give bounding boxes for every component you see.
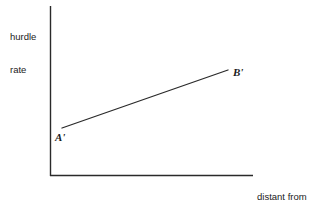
figure-container: hurdle rate distant from capabilities A'… (0, 0, 326, 203)
y-axis-title: hurdle rate (10, 9, 36, 97)
y-axis-title-line1: hurdle (10, 31, 36, 42)
data-point-label-a: A' (55, 131, 65, 143)
x-axis-title-line1: distant from (257, 191, 307, 202)
hurdle-rate-line (62, 70, 228, 128)
data-point-label-b: B' (233, 66, 243, 78)
x-axis-title: distant from capabilities (257, 169, 307, 203)
y-axis-title-line2: rate (10, 64, 36, 75)
